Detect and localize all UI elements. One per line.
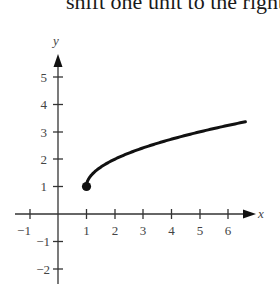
function-curve	[86, 122, 245, 187]
y-tick-label: 5	[41, 70, 48, 85]
x-tick-label: 6	[225, 223, 232, 238]
x-axis-label: x	[257, 206, 264, 221]
y-tick-label: 1	[41, 179, 48, 194]
x-tick-label: −1	[17, 223, 31, 238]
y-axis-arrow-icon	[54, 54, 63, 67]
y-tick-label: 2	[41, 152, 48, 167]
start-point	[82, 182, 91, 191]
y-tick-label: 3	[41, 125, 48, 140]
y-axis-label: y	[51, 33, 59, 48]
graph: −1 1 2 3 4 5 6 5 4 3 2 1 −1 −2 x y	[0, 0, 280, 289]
y-tick-label: 4	[41, 97, 48, 112]
y-tick-label: −2	[36, 262, 50, 277]
x-axis-arrow-icon	[243, 210, 256, 219]
x-tick-label: 5	[197, 223, 204, 238]
x-tick-label: 2	[112, 223, 119, 238]
y-tick-label: −1	[36, 234, 50, 249]
x-tick-label: 4	[168, 223, 175, 238]
x-tick-label: 3	[140, 223, 147, 238]
x-tick-label: 1	[83, 223, 90, 238]
